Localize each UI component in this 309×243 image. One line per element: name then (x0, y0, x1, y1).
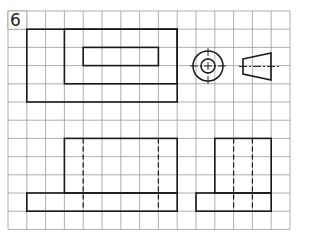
top-view-circles (190, 48, 226, 84)
side-view-trapezoid (239, 53, 279, 80)
outline-rect (215, 138, 271, 193)
drawing-sheet (0, 0, 309, 243)
grid (8, 11, 290, 229)
exercise-number: 6 (10, 11, 21, 29)
